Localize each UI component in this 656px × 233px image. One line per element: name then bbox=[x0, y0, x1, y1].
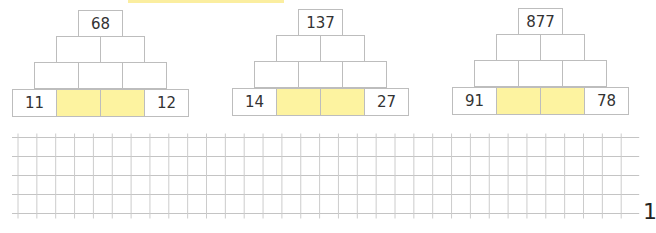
page-number: 1 bbox=[643, 199, 656, 224]
squared-writing-grid[interactable] bbox=[0, 0, 656, 233]
